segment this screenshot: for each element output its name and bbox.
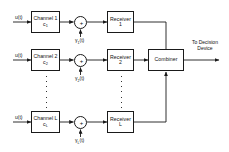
noise-label-2: γ2(t) xyxy=(75,75,84,83)
noise-label-L: γL(t) xyxy=(75,137,84,145)
combiner-block: Combiner xyxy=(148,49,184,71)
output-destination-line2: Device xyxy=(180,45,229,51)
receiver-block-L: Receiver L xyxy=(107,111,134,133)
plus-sign-icon-L: + xyxy=(75,117,88,130)
output-destination-label: To Decision Device xyxy=(180,39,229,52)
channel-block-2: Channel 2 c2 xyxy=(31,49,60,71)
noise-label-1: γ1(t) xyxy=(75,37,84,45)
plus-sign-icon-2: + xyxy=(75,55,88,68)
receiver-block-1-index: 1 xyxy=(119,22,122,27)
channel-block-1: Channel 1 c1 xyxy=(31,11,60,33)
channel-block-L-gain: cL xyxy=(43,122,48,128)
block-diagram: u(t) Channel 1 c1 + γ1(t) Receiver 1 u(t… xyxy=(0,0,229,152)
receiver-block-2-index: 2 xyxy=(119,60,122,65)
channel-column-ellipsis xyxy=(45,76,47,108)
combiner-block-label: Combiner xyxy=(155,57,178,62)
channel-block-1-gain: c1 xyxy=(43,22,48,28)
receiver-block-2: Receiver 2 xyxy=(107,49,134,71)
input-label-branch-1: u(t) xyxy=(15,14,23,20)
summing-junction-1: + xyxy=(74,16,87,29)
channel-block-L: Channel L cL xyxy=(31,111,60,133)
summing-junction-2: + xyxy=(74,54,87,67)
plus-sign-icon-1: + xyxy=(75,17,88,30)
receiver-block-L-index: L xyxy=(119,122,122,127)
summing-junction-L: + xyxy=(74,116,87,129)
receiver-block-1: Receiver 1 xyxy=(107,11,134,33)
receiver-column-ellipsis xyxy=(120,76,122,108)
input-label-branch-2: u(t) xyxy=(15,52,23,58)
input-label-branch-L: u(t) xyxy=(15,114,23,120)
channel-block-2-gain: c2 xyxy=(43,60,48,66)
